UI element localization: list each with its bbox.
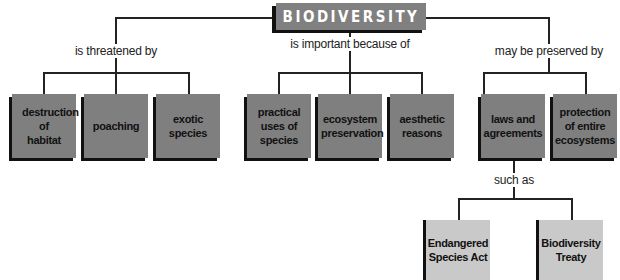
root-concept-biodiversity: BIODIVERSITY xyxy=(276,3,426,30)
concept-label: protection of entire ecosystems xyxy=(553,105,617,147)
link-label-such-as: such as xyxy=(491,173,537,187)
connector-line xyxy=(349,72,351,94)
concept-protection-of-ecosystems: protection of entire ecosystems xyxy=(553,94,617,158)
connector-line xyxy=(483,72,586,74)
connector-line xyxy=(43,72,45,94)
concept-label: ecosystem preservation xyxy=(319,112,381,140)
connector-line xyxy=(483,72,485,94)
link-label-important: is important because of xyxy=(287,37,412,51)
concept-practical-uses: practical uses of species xyxy=(247,94,311,158)
connector-line xyxy=(571,198,573,220)
concept-aesthetic-reasons: aesthetic reasons xyxy=(390,94,454,158)
connector-line xyxy=(458,198,460,220)
connector-line xyxy=(458,198,572,200)
concept-label: destruction of habitat xyxy=(20,105,68,147)
example-biodiversity-treaty: Biodiversity Treaty xyxy=(539,220,603,280)
concept-label: poaching xyxy=(91,119,142,133)
connector-line xyxy=(585,72,587,94)
concept-exotic-species: exotic species xyxy=(156,94,220,158)
connector-line xyxy=(426,17,549,19)
concept-label: laws and agreements xyxy=(481,112,545,140)
concept-label: practical uses of species xyxy=(247,105,311,147)
connector-line xyxy=(188,72,190,94)
connector-line xyxy=(278,72,280,94)
concept-destruction-of-habitat: destruction of habitat xyxy=(12,94,76,158)
connector-line xyxy=(421,72,423,94)
concept-label: exotic species xyxy=(161,112,215,140)
concept-poaching: poaching xyxy=(84,94,148,158)
connector-line xyxy=(115,72,117,94)
example-label: Biodiversity Treaty xyxy=(539,236,603,264)
link-label-preserved: may be preserved by xyxy=(492,44,606,58)
concept-laws-and-agreements: laws and agreements xyxy=(481,94,545,158)
example-endangered-species-act: Endangered Species Act xyxy=(426,220,490,280)
example-label: Endangered Species Act xyxy=(426,236,491,264)
link-label-threatened: is threatened by xyxy=(72,44,160,58)
concept-label: aesthetic reasons xyxy=(395,112,449,140)
concept-ecosystem-preservation: ecosystem preservation xyxy=(318,94,382,158)
connector-line xyxy=(115,17,276,19)
